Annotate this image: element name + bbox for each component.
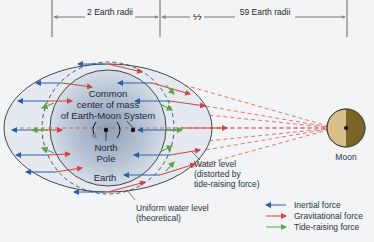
- center-label-2: center of mass: [77, 99, 140, 110]
- legend-tide-label: Tide-raising force: [294, 222, 360, 232]
- water-level-label-3: tide-raising force): [194, 179, 260, 189]
- moon: [327, 109, 365, 147]
- water-level-label-1: Water level: [194, 159, 236, 169]
- tide-diagram: 2 Earth radii ϟϟ 59 Earth radii: [0, 0, 374, 242]
- north-pole-dot: [104, 128, 108, 132]
- water-level-label-2: (distorted by: [194, 169, 242, 179]
- center-label-3: of Earth-Moon System: [61, 110, 156, 121]
- legend-gravitational-label: Gravitational force: [294, 211, 363, 221]
- legend-inertial-label: Inertial force: [294, 200, 341, 210]
- pole-label-1: North: [94, 142, 117, 153]
- pole-label-2: Pole: [96, 153, 115, 164]
- earth-label: Earth: [94, 172, 117, 183]
- uniform-level-label-2: (theoretical): [136, 213, 181, 223]
- legend: Inertial force Gravitational force Tide-…: [266, 200, 363, 232]
- center-label-1: Common: [89, 88, 128, 99]
- break-symbol: ϟϟ: [193, 12, 202, 22]
- moon-label: Moon: [335, 152, 357, 162]
- center-of-mass-dot: [131, 128, 135, 132]
- dim-label-2-radii: 2 Earth radii: [87, 7, 133, 17]
- uniform-level-label-1: Uniform water level: [136, 203, 209, 213]
- dim-label-59-radii: 59 Earth radii: [240, 7, 291, 17]
